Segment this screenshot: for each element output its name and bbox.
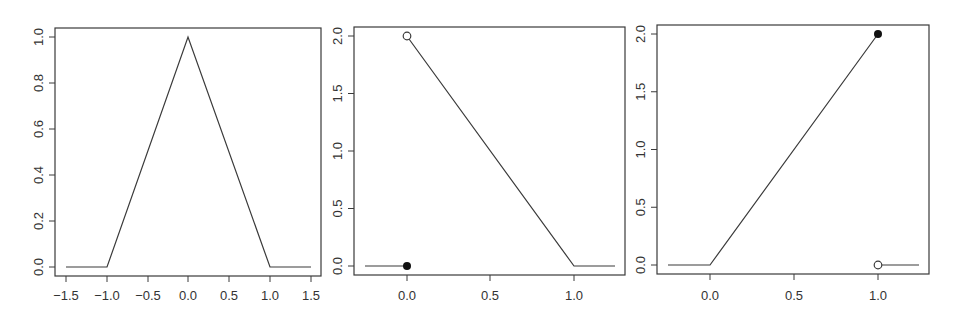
x-tick-label: 1.0 [869, 288, 887, 303]
x-axis: 0.0 0.5 1.0 [701, 274, 887, 303]
x-tick-label: 1.5 [302, 288, 320, 303]
x-tick-label: −1.0 [94, 288, 120, 303]
plot-frame [657, 25, 929, 274]
x-tick-label: 0.0 [398, 288, 416, 303]
x-tick-label: 0.0 [179, 288, 197, 303]
decreasing-curve [409, 39, 615, 266]
x-tick-label: 0.0 [701, 288, 719, 303]
x-tick-label: 1.0 [261, 288, 279, 303]
y-tick-label: 0.0 [31, 258, 46, 276]
open-point-marker [403, 32, 411, 40]
y-tick-label: 0.0 [633, 256, 648, 274]
y-axis: 0.0 0.5 1.0 1.5 2.0 [633, 25, 657, 274]
figure: −1.5 −1.0 −0.5 0.0 0.5 1.0 1.5 0.0 0.2 0… [0, 0, 958, 322]
y-axis: 0.0 0.2 0.4 0.6 0.8 1.0 [31, 28, 55, 276]
filled-point-marker [874, 30, 882, 38]
plot-frame [354, 27, 625, 275]
open-point-marker [874, 261, 882, 269]
y-tick-label: 1.0 [330, 142, 345, 160]
x-tick-label: −0.5 [135, 288, 161, 303]
y-tick-label: 1.5 [330, 84, 345, 102]
increasing-curve [668, 34, 878, 265]
y-tick-label: 1.0 [633, 140, 648, 158]
x-tick-label: −1.5 [53, 288, 79, 303]
y-tick-label: 1.5 [633, 83, 648, 101]
y-tick-label: 2.0 [330, 27, 345, 45]
panel-3: 0.0 0.5 1.0 0.0 0.5 1.0 1.5 2.0 [633, 25, 929, 303]
y-tick-label: 2.0 [633, 25, 648, 43]
x-tick-label: 0.5 [220, 288, 238, 303]
y-tick-label: 0.5 [330, 199, 345, 217]
x-axis: 0.0 0.5 1.0 [398, 275, 583, 303]
triangle-curve [66, 37, 311, 267]
y-tick-label: 0.2 [31, 212, 46, 230]
y-axis: 0.0 0.5 1.0 1.5 2.0 [330, 27, 354, 275]
x-tick-label: 0.5 [785, 288, 803, 303]
x-axis: −1.5 −1.0 −0.5 0.0 0.5 1.0 1.5 [53, 276, 320, 303]
filled-point-marker [403, 262, 411, 270]
y-tick-label: 0.4 [31, 166, 46, 184]
y-tick-label: 0.8 [31, 74, 46, 92]
y-tick-label: 0.5 [633, 198, 648, 216]
plot-frame [55, 28, 321, 276]
y-tick-label: 1.0 [31, 28, 46, 46]
y-tick-label: 0.0 [330, 257, 345, 275]
y-tick-label: 0.6 [31, 120, 46, 138]
x-tick-label: 0.5 [481, 288, 499, 303]
x-tick-label: 1.0 [565, 288, 583, 303]
panel-2: 0.0 0.5 1.0 0.0 0.5 1.0 1.5 2.0 [330, 27, 625, 303]
panel-1: −1.5 −1.0 −0.5 0.0 0.5 1.0 1.5 0.0 0.2 0… [31, 28, 321, 303]
